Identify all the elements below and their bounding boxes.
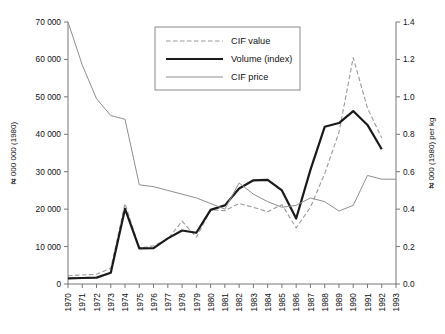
chart-canvas: 010 00020 00030 00040 00050 00060 00070 …	[0, 0, 445, 334]
right-axis-title: ₦ 000 (1980) per kg	[427, 117, 436, 188]
x-axis-tick-label: 1990	[348, 293, 358, 312]
legend-item-label: Volume (index)	[231, 54, 292, 64]
left-axis: 010 00020 00030 00040 00050 00060 00070 …	[36, 17, 68, 289]
right-axis-tick-label: 0.8	[403, 129, 415, 139]
left-axis-tick-label: 10 000	[36, 242, 62, 252]
x-axis-tick-label: 1981	[220, 293, 230, 312]
x-axis-tick-label: 1987	[306, 293, 316, 312]
x-axis-tick-label: 1993	[391, 293, 401, 312]
right-axis-tick-label: 0.2	[403, 242, 415, 252]
x-axis-tick-label: 1979	[192, 293, 202, 312]
chart-figure: 010 00020 00030 00040 00050 00060 00070 …	[0, 0, 445, 334]
left-axis-tick-label: 20 000	[36, 204, 62, 214]
x-axis-tick-label: 1986	[291, 293, 301, 312]
x-axis-tick-label: 1973	[106, 293, 116, 312]
left-axis-tick-label: 70 000	[36, 17, 62, 27]
x-axis: 1970197119721973197419751976197719781979…	[63, 284, 401, 311]
x-axis-tick-label: 1971	[77, 293, 87, 312]
x-axis-tick-label: 1977	[163, 293, 173, 312]
left-axis-tick-label: 50 000	[36, 92, 62, 102]
right-axis-tick-label: 1.0	[403, 92, 415, 102]
left-axis-tick-label: 30 000	[36, 167, 62, 177]
x-axis-tick-label: 1975	[135, 293, 145, 312]
x-axis-tick-label: 1972	[92, 293, 102, 312]
left-axis-tick-label: 60 000	[36, 54, 62, 64]
x-axis-tick-label: 1989	[334, 293, 344, 312]
legend-item-label: CIF value	[231, 36, 270, 46]
right-axis-tick-label: 1.2	[403, 54, 415, 64]
x-axis-tick-label: 1974	[120, 293, 130, 312]
left-axis-tick-label: 0	[56, 279, 61, 289]
x-axis-tick-label: 1976	[149, 293, 159, 312]
left-axis-tick-label: 40 000	[36, 129, 62, 139]
right-axis-tick-label: 1.4	[403, 17, 415, 27]
right-axis-tick-label: 0.0	[403, 279, 415, 289]
series-line-volume-index	[68, 111, 382, 278]
x-axis-tick-label: 1978	[177, 293, 187, 312]
right-axis-tick-label: 0.4	[403, 204, 415, 214]
x-axis-tick-label: 1982	[234, 293, 244, 312]
x-axis-tick-label: 1988	[320, 293, 330, 312]
x-axis-tick-label: 1992	[377, 293, 387, 312]
x-axis-tick-label: 1970	[63, 293, 73, 312]
x-axis-tick-label: 1985	[277, 293, 287, 312]
x-axis-tick-label: 1984	[263, 293, 273, 312]
x-axis-tick-label: 1991	[363, 293, 373, 312]
left-axis-title: ₦ 000 000 (1980)	[9, 122, 18, 185]
x-axis-tick-label: 1983	[249, 293, 259, 312]
right-axis: 0.00.20.40.60.81.01.21.4	[396, 17, 415, 289]
x-axis-tick-label: 1980	[206, 293, 216, 312]
axis-titles: ₦ 000 000 (1980)₦ 000 (1980) per kg	[9, 117, 436, 188]
chart-legend: CIF valueVolume (index)CIF price	[155, 27, 300, 90]
right-axis-tick-label: 0.6	[403, 167, 415, 177]
legend-item-label: CIF price	[231, 72, 268, 82]
